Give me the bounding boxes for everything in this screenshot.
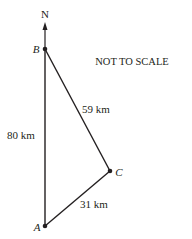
point-b — [43, 47, 48, 52]
arrowhead-icon — [43, 22, 48, 30]
length-ca: 31 km — [80, 198, 108, 210]
not-to-scale-note: NOT TO SCALE — [95, 56, 169, 67]
length-bc: 59 km — [82, 103, 110, 115]
point-a — [43, 224, 48, 229]
triangle-diagram: N B A C 80 km 59 km 31 km NOT TO SCALE — [0, 0, 192, 239]
label-b: B — [33, 43, 40, 55]
north-arrow: N — [41, 8, 49, 49]
label-a: A — [33, 221, 41, 233]
north-label: N — [41, 8, 49, 20]
point-c — [108, 169, 113, 174]
length-ab: 80 km — [7, 129, 35, 141]
label-c: C — [115, 166, 123, 178]
